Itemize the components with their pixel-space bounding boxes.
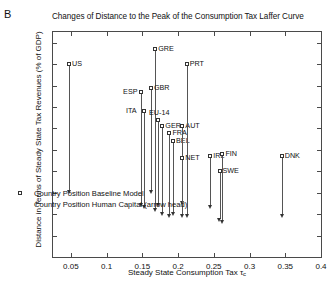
x-axis-subscript: c [243,271,246,277]
baseline-marker [149,86,153,90]
country-label: US [72,59,82,68]
x-axis-label: Steady State Consumption Tax τc [52,268,322,277]
x-tick [321,253,322,257]
legend-label-human-capital: Country Position Human Capital (arrow he… [34,199,187,210]
y-tick [53,43,57,44]
chart-panel: B Changes of Distance to the Peak of the… [0,0,336,282]
baseline-marker [167,131,171,135]
baseline-marker [142,109,146,113]
arrow-stem [155,49,156,208]
baseline-marker [156,118,160,122]
y-tick-right [317,236,321,237]
x-axis-label-text: Steady State Consumption Tax [128,268,238,277]
baseline-marker [180,156,184,160]
y-tick [53,64,57,65]
arrow-head-marker [171,212,175,216]
panel-letter: B [4,8,11,20]
baseline-marker [180,124,184,128]
arrow-stem [282,156,283,214]
arrow-stem [69,64,70,191]
y-tick [53,107,57,108]
x-tick [214,253,215,257]
x-tick-top [178,32,179,36]
legend-label-baseline: Country Position Baseline Model [34,188,144,199]
arrow-stem [187,64,188,214]
arrow-head-marker [160,212,164,216]
baseline-marker [218,169,222,173]
country-label: ESP [123,87,137,96]
y-tick [53,86,57,87]
y-tick-right [317,193,321,194]
y-tick [53,171,57,172]
arrow-head-marker [280,214,284,218]
x-tick [250,253,251,257]
baseline-marker [220,152,224,156]
x-tick [107,253,108,257]
country-label: PRT [190,59,204,68]
x-tick-top [214,32,215,36]
baseline-marker [139,90,143,94]
country-label: GBR [154,83,170,92]
baseline-marker [67,62,71,66]
country-label: DNK [285,151,300,160]
arrow-stem [158,120,159,204]
y-tick-right [317,257,321,258]
country-label: FIN [225,149,237,158]
x-tick-top [250,32,251,36]
chart-title: Changes of Distance to the Peak of the C… [52,12,334,21]
plot-inner: 01020304050607080901000.050.10.150.20.25… [53,32,321,257]
y-tick [53,257,57,258]
baseline-marker [171,139,175,143]
y-tick [53,214,57,215]
x-tick [285,253,286,257]
baseline-marker [208,154,212,158]
arrow-head-marker [180,214,184,218]
y-axis-label: Distance in Terms of Steady State Tax Re… [34,25,43,255]
x-tick [178,253,179,257]
plot-area: 01020304050607080901000.050.10.150.20.25… [52,31,322,258]
y-tick [53,128,57,129]
x-tick [71,253,72,257]
y-tick [53,236,57,237]
x-tick-top [107,32,108,36]
y-tick-right [317,171,321,172]
arrow-stem [151,88,152,191]
y-tick-right [317,214,321,215]
country-label: GRE [158,44,174,53]
arrow-head-marker [217,218,221,222]
y-tick-right [317,150,321,151]
arrow-stem [222,154,223,221]
arrow-stem [210,156,211,206]
x-tick [142,253,143,257]
y-tick-right [317,107,321,108]
baseline-marker [280,154,284,158]
x-tick-top [142,32,143,36]
y-tick [53,150,57,151]
country-label: SWE [223,166,239,175]
arrow-head-marker [208,205,212,209]
x-tick-top [285,32,286,36]
country-label: ITA [126,106,137,115]
x-tick-top [71,32,72,36]
arrow-head-marker [149,190,153,194]
y-tick-right [317,86,321,87]
x-tick-top [321,32,322,36]
arrow-stem [220,171,221,218]
open-square-icon [18,191,22,195]
country-label: NET [185,153,199,162]
y-tick-right [317,64,321,65]
baseline-marker [185,62,189,66]
arrow-head-marker [185,214,189,218]
y-tick-right [317,43,321,44]
country-label: EU-14 [149,108,169,117]
y-tick-right [317,128,321,129]
baseline-marker [160,124,164,128]
baseline-marker [153,47,157,51]
